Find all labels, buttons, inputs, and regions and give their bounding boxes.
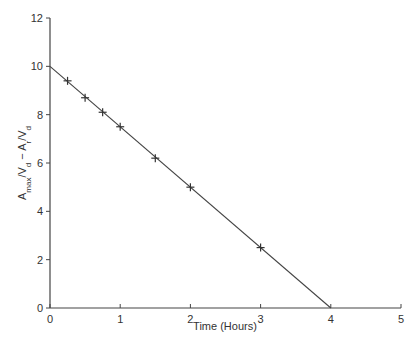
data-point-plus-icon xyxy=(151,154,159,162)
data-layer xyxy=(50,66,331,308)
y-tick-label: 4 xyxy=(37,205,43,217)
y-tick-label: 12 xyxy=(31,12,43,24)
y-tick-label: 6 xyxy=(37,157,43,169)
x-tick-label: 1 xyxy=(117,313,123,325)
y-axis-title: Amax/Vd − Ar/Vd xyxy=(16,126,33,200)
x-axis-title: Time (Hours) xyxy=(193,320,257,332)
y-tick-label: 0 xyxy=(37,302,43,314)
x-tick-label: 5 xyxy=(398,313,404,325)
y-tick-label: 2 xyxy=(37,254,43,266)
y-tick-label: 10 xyxy=(31,60,43,72)
y-tick-label: 8 xyxy=(37,109,43,121)
chart-canvas: 012345024681012 Time (Hours) Amax/Vd − A… xyxy=(0,0,416,349)
axes: 012345024681012 xyxy=(31,12,404,325)
x-tick-label: 4 xyxy=(328,313,334,325)
x-tick-label: 3 xyxy=(258,313,264,325)
data-point-plus-icon xyxy=(81,94,89,102)
x-tick-label: 0 xyxy=(47,313,53,325)
